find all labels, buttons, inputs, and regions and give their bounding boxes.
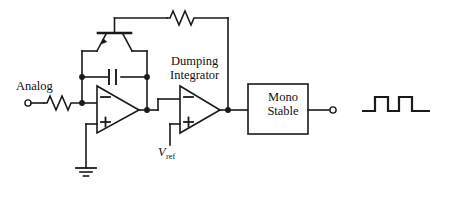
schematic-drawing xyxy=(0,0,455,197)
mono-stable-label: Mono Stable xyxy=(255,90,311,118)
dumping-integrator-label-line1: Dumping xyxy=(171,54,218,68)
input-resistor xyxy=(44,96,82,110)
dumping-integrator-label: Dumping Integrator xyxy=(170,54,219,82)
junction-dot-comparator-output xyxy=(225,107,231,113)
mono-stable-label-line2: Stable xyxy=(255,104,311,118)
feedback-resistor xyxy=(167,11,228,25)
analog-input-label: Analog xyxy=(16,79,53,93)
integrator-opamp-body xyxy=(97,86,139,133)
vref-label: Vref xyxy=(158,145,175,159)
mono-stable-label-line1: Mono xyxy=(268,90,298,104)
transistor-drain-lead xyxy=(123,34,132,51)
vref-symbol: V xyxy=(158,145,166,159)
analog-input-label-text: Analog xyxy=(16,79,53,93)
digital-pulse-train-waveform xyxy=(362,97,430,111)
vref-subscript: ref xyxy=(166,151,175,161)
comparator-opamp-body xyxy=(180,86,220,133)
circuit-diagram-canvas: Analog Dumping Integrator Mono Stable Vr… xyxy=(0,0,455,197)
digital-output-terminal xyxy=(330,107,336,113)
dumping-integrator-label-line2: Integrator xyxy=(170,68,219,82)
analog-input-terminal xyxy=(25,100,31,106)
